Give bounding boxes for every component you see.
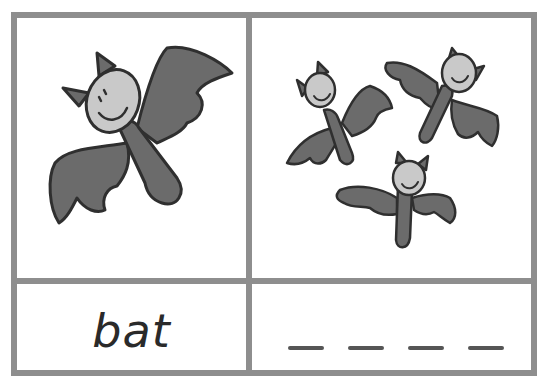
word-panel: bat — [17, 284, 246, 370]
letter-blank — [348, 346, 384, 350]
single-bat-panel — [17, 18, 246, 278]
blank-panel — [252, 284, 531, 370]
bat-icon — [17, 18, 246, 278]
word-card: bat — [11, 12, 537, 376]
letter-blank — [288, 346, 324, 350]
letter-blanks — [288, 346, 504, 350]
letter-blank — [408, 346, 444, 350]
bats-icon — [252, 18, 531, 278]
many-bats-panel — [252, 18, 531, 278]
word-label: bat — [17, 304, 246, 358]
letter-blank — [468, 346, 504, 350]
